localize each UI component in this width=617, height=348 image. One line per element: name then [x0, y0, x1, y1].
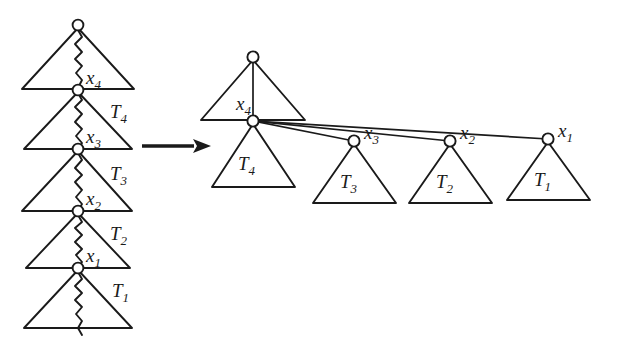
node-right-x3[interactable] [348, 135, 359, 146]
right-tree: x4 x3 x2 x1 T4 T3 T2 T1 [201, 51, 590, 203]
label-right-x3: x3 [363, 122, 379, 147]
node-right-x2[interactable] [444, 135, 455, 146]
arrow-head [193, 139, 211, 153]
label-left-T3: T3 [110, 163, 128, 188]
left-tree: x4 x3 x2 x1 T4 T3 T2 T1 [22, 20, 134, 335]
node-left-x3[interactable] [73, 144, 84, 155]
node-left-root[interactable] [73, 20, 84, 31]
label-right-x1: x1 [557, 120, 573, 145]
triangle-left-top [22, 28, 134, 89]
figure-canvas: x4 x3 x2 x1 T4 T3 T2 T1 [0, 0, 617, 348]
node-right-root[interactable] [247, 51, 258, 62]
label-left-T1: T1 [112, 280, 129, 305]
node-left-x1[interactable] [73, 263, 84, 274]
node-left-x4[interactable] [73, 85, 84, 96]
diagram-svg: x4 x3 x2 x1 T4 T3 T2 T1 [0, 0, 617, 348]
label-right-x2: x2 [459, 122, 475, 147]
right-tree-edges [253, 121, 548, 141]
label-left-T4: T4 [110, 101, 128, 126]
right-tree-nodes [247, 51, 553, 146]
transform-arrow-icon [142, 139, 211, 153]
label-left-T2: T2 [110, 223, 128, 248]
node-left-x2[interactable] [73, 206, 84, 217]
node-right-x1[interactable] [542, 133, 553, 144]
